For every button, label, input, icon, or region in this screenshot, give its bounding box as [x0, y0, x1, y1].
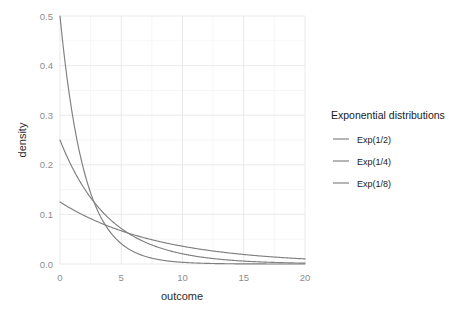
- y-tick-label: 0.3: [40, 110, 53, 121]
- legend-item[interactable]: Exp(1/8): [333, 179, 391, 189]
- legend-item-label: Exp(1/2): [357, 135, 391, 145]
- y-tick-label: 0.5: [40, 11, 53, 22]
- x-tick-label: 20: [300, 272, 311, 283]
- x-axis-tick-labels: 05101520: [57, 272, 310, 283]
- y-tick-label: 0.1: [40, 209, 53, 220]
- x-tick-label: 0: [57, 272, 62, 283]
- y-tick-label: 0.2: [40, 159, 53, 170]
- x-tick-label: 10: [177, 272, 188, 283]
- x-tick-label: 15: [238, 272, 249, 283]
- exponential-density-chart: 05101520 0.00.10.20.30.40.5 outcome dens…: [0, 0, 473, 316]
- x-tick-label: 5: [119, 272, 124, 283]
- legend-item-label: Exp(1/4): [357, 157, 391, 167]
- y-tick-label: 0.0: [40, 259, 53, 270]
- chart-canvas: 05101520 0.00.10.20.30.40.5 outcome dens…: [0, 0, 473, 316]
- y-axis-tick-labels: 0.00.10.20.30.40.5: [40, 11, 53, 270]
- legend-items: Exp(1/2)Exp(1/4)Exp(1/8): [333, 135, 391, 189]
- legend-item[interactable]: Exp(1/4): [333, 157, 391, 167]
- legend-title: Exponential distributions: [331, 109, 445, 121]
- legend-item-label: Exp(1/8): [357, 179, 391, 189]
- legend: Exponential distributions Exp(1/2)Exp(1/…: [331, 109, 445, 189]
- legend-item[interactable]: Exp(1/2): [333, 135, 391, 145]
- x-axis-title: outcome: [161, 290, 203, 302]
- y-axis-title: density: [16, 122, 28, 157]
- y-tick-label: 0.4: [40, 60, 53, 71]
